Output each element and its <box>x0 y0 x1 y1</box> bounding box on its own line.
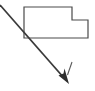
diagram-svg: L-shaped part with direction arrow <box>0 0 95 91</box>
arrow-length-tick <box>68 62 73 75</box>
diagram-canvas: L-shaped part with direction arrow <box>0 0 95 91</box>
arrow-head-icon <box>59 69 70 85</box>
l-shaped-polygon <box>24 7 88 38</box>
arrow-shaft <box>0 5 64 78</box>
